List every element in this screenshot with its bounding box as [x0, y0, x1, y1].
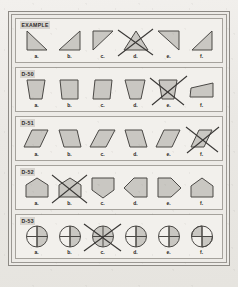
answer-option-c[interactable]: c. — [87, 224, 118, 258]
pentagon-point-up-icon — [22, 175, 52, 200]
right-triangle-down-right-icon — [55, 28, 85, 53]
option-letter: d. — [133, 53, 137, 60]
pentagon-point-right-icon — [154, 175, 184, 200]
answer-options-strip: a. b. c. — [16, 175, 222, 210]
option-letter: a. — [34, 249, 38, 256]
circle-quarters-right-half-2-icon — [55, 224, 85, 249]
option-letter: e. — [166, 102, 170, 109]
option-letter: b. — [67, 249, 71, 256]
answer-option-f[interactable]: f. — [186, 224, 217, 258]
answer-option-d[interactable]: d. — [120, 28, 151, 62]
pentagon-point-up-2-icon — [55, 175, 85, 200]
option-letter: a. — [34, 200, 38, 207]
option-letter: d. — [133, 102, 137, 109]
option-letter: f. — [200, 102, 203, 109]
answer-options-strip: a. b. c. — [16, 28, 222, 63]
pentagon-point-down-icon — [88, 175, 118, 200]
question-row-d53: D-53 a. — [15, 214, 223, 259]
answer-option-e[interactable]: e. — [153, 28, 184, 62]
option-letter: a. — [34, 53, 38, 60]
question-row-d51: D-51 a. b. — [15, 116, 223, 161]
answer-option-e[interactable]: e. — [153, 77, 184, 111]
trapezoid-narrow-bottom-2-icon — [121, 77, 151, 102]
option-letter: b. — [67, 200, 71, 207]
right-triangle-down-left-icon — [22, 28, 52, 53]
parallelogram-narrow-icon — [187, 126, 217, 151]
answer-option-b[interactable]: b. — [54, 77, 85, 111]
parallelogram-left-lean-icon — [55, 126, 85, 151]
option-letter: f. — [200, 151, 203, 158]
answer-option-b[interactable]: b. — [54, 28, 85, 62]
option-letter: e. — [166, 200, 170, 207]
option-letter: d. — [133, 151, 137, 158]
option-letter: f. — [200, 53, 203, 60]
answer-option-b[interactable]: b. — [54, 175, 85, 209]
option-letter: b. — [67, 53, 71, 60]
question-row-d52: D-52 a. b. — [15, 165, 223, 210]
option-letter: b. — [67, 102, 71, 109]
trapezoid-narrow-bottom-3-icon — [154, 77, 184, 102]
right-triangle-up-right-icon — [88, 28, 118, 53]
answer-option-b[interactable]: b. — [54, 126, 85, 160]
circle-quarters-lower-left-icon — [154, 224, 184, 249]
right-triangle-bottom-right-icon — [187, 28, 217, 53]
answer-option-a[interactable]: a. — [21, 77, 52, 111]
option-letter: e. — [166, 53, 170, 60]
answer-option-f[interactable]: f. — [186, 126, 217, 160]
circle-quarters-left-half-icon — [121, 224, 151, 249]
circle-quarters-right-half-icon — [22, 224, 52, 249]
circle-quarters-upper-right-icon — [187, 224, 217, 249]
right-triangle-up-left-icon — [121, 28, 151, 53]
answer-option-b[interactable]: b. — [54, 224, 85, 258]
answer-option-d[interactable]: d. — [120, 126, 151, 160]
pentagon-point-up-3-icon — [187, 175, 217, 200]
parallelogram-right-lean-2-icon — [88, 126, 118, 151]
option-letter: a. — [34, 102, 38, 109]
parallelogram-right-lean-3-icon — [154, 126, 184, 151]
answer-option-a[interactable]: a. — [21, 175, 52, 209]
circle-quarters-spoked-icon — [88, 224, 118, 249]
right-triangle-top-left-icon — [154, 28, 184, 53]
pentagon-point-left-icon — [121, 175, 151, 200]
option-letter: c. — [100, 53, 104, 60]
trapezoid-slanted-right-icon — [55, 77, 85, 102]
answer-option-e[interactable]: e. — [153, 224, 184, 258]
option-letter: c. — [100, 102, 104, 109]
answer-option-a[interactable]: a. — [21, 28, 52, 62]
option-letter: c. — [100, 151, 104, 158]
option-letter: c. — [100, 200, 104, 207]
question-row-example: EXAMPLE a. b. — [15, 18, 223, 63]
option-letter: e. — [166, 151, 170, 158]
answer-option-c[interactable]: c. — [87, 77, 118, 111]
option-letter: d. — [133, 200, 137, 207]
answer-option-f[interactable]: f. — [186, 175, 217, 209]
answer-options-strip: a. b. c. — [16, 126, 222, 161]
trapezoid-slanted-left-icon — [88, 77, 118, 102]
test-sheet-inner-frame: EXAMPLE a. b. — [11, 14, 227, 263]
answer-option-f[interactable]: f. — [186, 77, 217, 111]
answer-option-c[interactable]: c. — [87, 126, 118, 160]
parallelogram-left-lean-2-icon — [121, 126, 151, 151]
answer-option-e[interactable]: e. — [153, 175, 184, 209]
answer-option-d[interactable]: d. — [120, 175, 151, 209]
answer-option-e[interactable]: e. — [153, 126, 184, 160]
answer-option-c[interactable]: c. — [87, 175, 118, 209]
option-letter: e. — [166, 249, 170, 256]
trapezoid-rotated-flat-icon — [187, 77, 217, 102]
answer-option-c[interactable]: c. — [87, 28, 118, 62]
answer-option-d[interactable]: d. — [120, 77, 151, 111]
answer-option-f[interactable]: f. — [186, 28, 217, 62]
question-row-d50: D-50 a. b. — [15, 67, 223, 112]
answer-options-strip: a. b. — [16, 224, 222, 259]
parallelogram-right-lean-icon — [22, 126, 52, 151]
answer-option-a[interactable]: a. — [21, 224, 52, 258]
option-letter: d. — [133, 249, 137, 256]
option-letter: c. — [100, 249, 104, 256]
answer-option-d[interactable]: d. — [120, 224, 151, 258]
option-letter: f. — [200, 249, 203, 256]
answer-option-a[interactable]: a. — [21, 126, 52, 160]
trapezoid-narrow-bottom-icon — [22, 77, 52, 102]
test-sheet-frame: EXAMPLE a. b. — [8, 11, 230, 266]
answer-options-strip: a. b. c. — [16, 77, 222, 112]
option-letter: a. — [34, 151, 38, 158]
